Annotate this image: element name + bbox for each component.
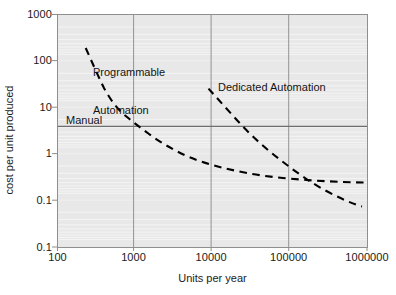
x-tick-label: 1000000 — [327, 251, 396, 264]
y-tick-label: 1000 — [8, 9, 52, 20]
y-axis-title: cost per unit produced — [3, 86, 15, 195]
x-tick-label: 100000 — [249, 251, 329, 264]
y-tick-1000: 1000 — [8, 9, 52, 20]
y-axis-title-holder: cost per unit produced — [2, 60, 16, 220]
x-tick-label: 10000 — [171, 251, 251, 264]
x-tick-10000: 10000 — [171, 251, 251, 264]
y-axis-ticks — [52, 15, 57, 248]
annotation-programmable-line-2: Automation — [93, 104, 165, 117]
x-tick-label: 100 — [18, 251, 98, 264]
annotation-manual: Manual — [66, 114, 102, 127]
chart-figure: 1000 100 10 1 0.1 0.1 100 1000 10000 100… — [0, 0, 396, 295]
annotation-programmable-line-1: Programmable — [93, 66, 165, 79]
x-tick-100000: 100000 — [249, 251, 329, 264]
x-tick-label: 1000 — [94, 251, 174, 264]
x-axis-title: Units per year — [57, 272, 368, 285]
x-tick-1000000: 1000000 — [327, 251, 396, 264]
x-tick-1000: 1000 — [94, 251, 174, 264]
annotation-dedicated-automation: Dedicated Automation — [218, 81, 326, 94]
annotation-programmable-automation: Programmable Automation — [93, 41, 165, 141]
x-tick-100: 100 — [18, 251, 98, 264]
